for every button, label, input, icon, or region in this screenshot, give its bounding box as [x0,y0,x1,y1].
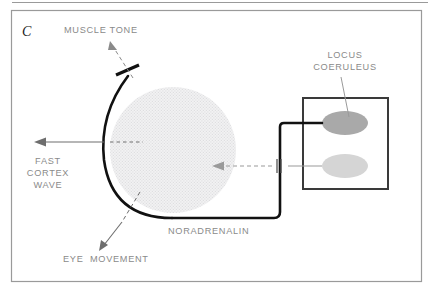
fast-cortex-wave-arrow-head [34,138,46,147]
label-muscle-tone: MUSCLE TONE [64,25,138,35]
label-fast-cortex-wave-line2: CORTEX [27,168,69,178]
label-noradrenalin: NORADRENALIN [168,226,249,236]
label-fast-cortex-wave-line1: FAST [35,156,61,166]
eye-movement-arrow-shaft [104,222,122,245]
label-fast-cortex-wave-line3: WAVE [34,180,63,190]
reticular-formation-disk [110,87,236,213]
figure-panel-c: C MUSCLE TONE FAST CORTEX WAVE EYE MOVEM… [0,0,435,293]
label-locus-coeruleus-line1: LOCUS [327,50,362,60]
panel-letter: C [22,24,32,39]
locus-coeruleus-nucleus-upper [322,111,368,135]
muscle-tone-arrow-head [108,41,117,50]
locus-coeruleus-nucleus-lower [322,154,368,178]
diagram-canvas: C MUSCLE TONE FAST CORTEX WAVE EYE MOVEM… [0,0,435,293]
label-locus-coeruleus-line2: COERULEUS [313,62,376,72]
label-eye-movement: EYE MOVEMENT [63,254,149,264]
